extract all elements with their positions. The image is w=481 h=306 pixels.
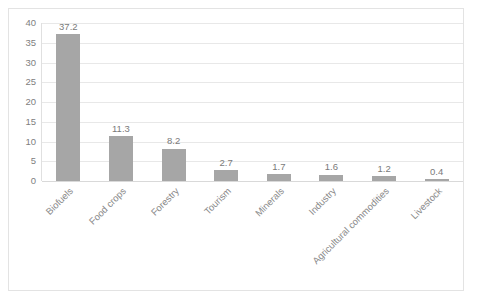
bar: [319, 175, 343, 181]
bar-value-label: 8.2: [167, 136, 180, 146]
bar-group: 2.7Tourism: [200, 23, 253, 181]
bar: [162, 149, 186, 181]
bar: [109, 136, 133, 181]
bar-series: 37.2Biofuels11.3Food crops8.2Forestry2.7…: [42, 23, 463, 181]
bar-group: 11.3Food crops: [95, 23, 148, 181]
y-axis-tick-label: 30: [25, 58, 36, 68]
bar-value-label: 1.6: [325, 162, 338, 172]
x-axis-category-label: Forestry: [149, 186, 180, 217]
x-axis-category-label: Minerals: [253, 186, 285, 218]
bar-value-label: 2.7: [220, 158, 233, 168]
bar: [214, 170, 238, 181]
plot-area: 0510152025303540 37.2Biofuels11.3Food cr…: [42, 23, 463, 181]
bar-group: 1.6Industry: [305, 23, 358, 181]
y-axis-tick-label: 25: [25, 78, 36, 88]
y-axis-tick-label: 40: [25, 18, 36, 28]
bar: [267, 174, 291, 181]
y-axis-tick-label: 0: [31, 176, 36, 186]
bar-group: 1.7Minerals: [253, 23, 306, 181]
bar-value-label: 11.3: [112, 124, 130, 134]
y-axis-tick-label: 35: [25, 38, 36, 48]
bar: [372, 176, 396, 181]
x-axis-category-label: Livestock: [409, 186, 444, 221]
x-axis-category-label: Biofuels: [44, 186, 75, 217]
y-axis-tick-label: 5: [31, 157, 36, 167]
x-axis-category-label: Food crops: [87, 186, 127, 226]
bar-group: 37.2Biofuels: [42, 23, 95, 181]
bar-value-label: 1.2: [377, 164, 390, 174]
bar-value-label: 1.7: [272, 162, 285, 172]
chart-frame: 0510152025303540 37.2Biofuels11.3Food cr…: [8, 8, 464, 291]
bar-value-label: 0.4: [430, 167, 443, 177]
bar-value-label: 37.2: [59, 22, 78, 32]
bar: [56, 34, 80, 181]
y-axis-tick-label: 10: [25, 137, 36, 147]
x-axis-category-label: Industry: [308, 186, 339, 217]
gridline: [42, 181, 463, 182]
bar-group: 1.2Agricultural commodities: [358, 23, 411, 181]
y-axis-tick-label: 20: [25, 97, 36, 107]
x-axis-category-label: Tourism: [203, 186, 233, 216]
y-axis-tick-label: 15: [25, 117, 36, 127]
bar-group: 0.4Livestock: [410, 23, 463, 181]
bar-group: 8.2Forestry: [147, 23, 200, 181]
bar: [425, 179, 449, 181]
